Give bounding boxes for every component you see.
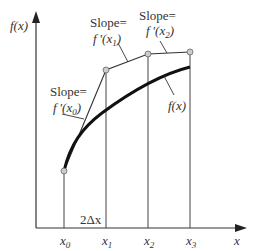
curve-label: f(x) [168, 98, 186, 113]
x-axis-arrow-icon [235, 224, 247, 232]
annotation-slope-x1-line1: Slope= [90, 15, 127, 30]
tick-x3: x3 [185, 233, 197, 250]
leader-curve [164, 76, 174, 95]
tick-x1: x1 [101, 233, 112, 250]
point-x0 [61, 168, 67, 174]
point-x1 [103, 67, 109, 73]
annotation-slope-x0: Slope= f ′(x0) [50, 84, 87, 117]
y-axis-arrow-icon [32, 11, 40, 23]
annotation-slope-x1-line2: f ′(x1) [93, 31, 121, 48]
euler-slope-diagram: f(x) Slope= f ′(x0) Slope= f ′(x1) Slope… [0, 0, 253, 251]
tick-x2: x2 [143, 233, 155, 250]
leader-slope-x2 [160, 41, 167, 53]
annotation-slope-x1: Slope= f ′(x1) [90, 15, 127, 48]
tick-x0: x0 [59, 233, 71, 250]
x-axis-label: x [233, 233, 240, 248]
axes [36, 20, 238, 228]
annotation-slope-x2: Slope= f ′(x2) [139, 8, 176, 40]
vertical-lines [64, 52, 190, 228]
annotation-slope-x2-line2: f ′(x2) [146, 23, 174, 40]
annotation-slope-x0-line1: Slope= [50, 84, 87, 99]
point-x2 [145, 51, 151, 57]
annotation-slope-x2-line1: Slope= [139, 8, 176, 23]
interval-label: 2Δx [80, 212, 102, 227]
annotation-slope-x0-line2: f ′(x0) [53, 100, 81, 117]
y-axis-label: f(x) [10, 18, 28, 33]
point-x3 [187, 49, 193, 55]
